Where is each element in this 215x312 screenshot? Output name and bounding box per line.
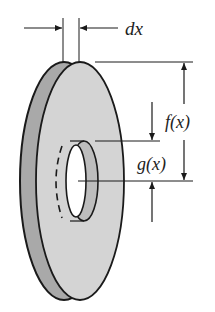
dx-label: dx bbox=[125, 18, 144, 39]
gx-dimension: g(x) bbox=[137, 102, 166, 222]
washer-diagram: dx f(x) g(x) bbox=[0, 0, 215, 312]
dx-dimension: dx bbox=[24, 18, 144, 62]
gx-label: g(x) bbox=[137, 154, 166, 175]
fx-dimension: f(x) bbox=[165, 63, 190, 180]
fx-label: f(x) bbox=[165, 112, 190, 133]
